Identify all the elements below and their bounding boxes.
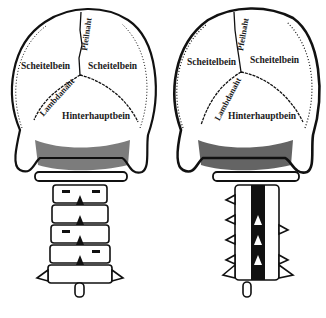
- label-scheitelbein-right: Scheitelbein: [88, 62, 137, 72]
- label-scheitelbein-left: Scheitelbein: [21, 62, 70, 72]
- label-hinterhauptbein: Hinterhauptbein: [228, 112, 296, 122]
- label-scheitelbein-left: Scheitelbein: [187, 58, 236, 68]
- skull-figure-left: Scheitelbein Scheitelbein Pfeilnaht Lamb…: [0, 0, 163, 318]
- label-hinterhauptbein: Hinterhauptbein: [62, 112, 130, 122]
- skull-figure-right: Scheitelbein Scheitelbein Pfeilnaht Lamb…: [163, 0, 326, 318]
- label-scheitelbein-right: Scheitelbein: [250, 56, 299, 66]
